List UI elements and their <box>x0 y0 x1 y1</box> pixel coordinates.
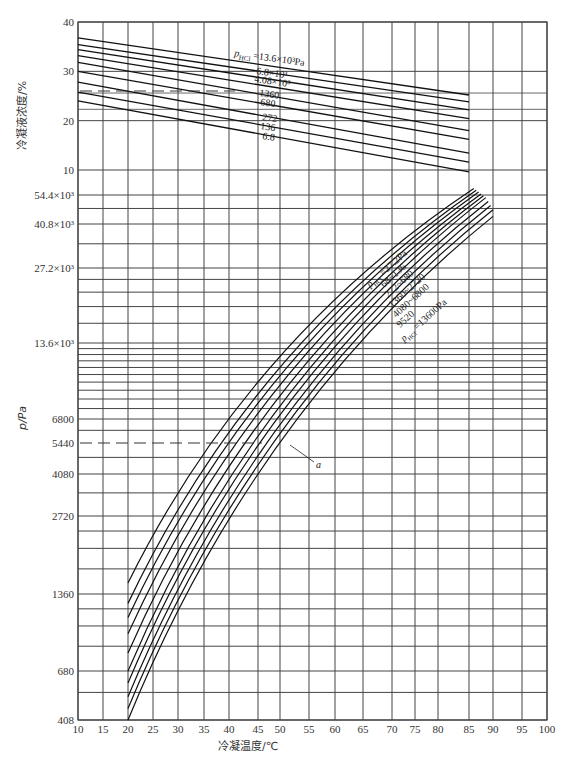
pressure-curve <box>128 190 476 603</box>
x-tick-label: 55 <box>304 723 316 735</box>
lower-y-tick-label: 40.8×10³ <box>34 218 74 230</box>
x-tick-label: 15 <box>98 723 110 735</box>
lower-y-tick-label: 4080 <box>52 468 75 480</box>
x-tick-label: 45 <box>253 723 265 735</box>
svg-text:6.8: 6.8 <box>262 130 276 143</box>
upper-y-tick-label: 30 <box>63 65 75 77</box>
axis-ticks: 1015202530354045505560657075808590951004… <box>34 16 556 735</box>
x-tick-label: 30 <box>173 723 185 735</box>
pressure-curve <box>128 194 481 634</box>
lower-y-tick-label: 6800 <box>52 413 75 425</box>
pressure-curve <box>128 192 479 617</box>
pressure-curve <box>128 202 488 684</box>
grid-lines <box>78 22 547 720</box>
lower-y-tick-label: 5440 <box>52 437 75 449</box>
lower-y-tick-label: 680 <box>58 665 75 677</box>
x-tick-label: 10 <box>73 723 85 735</box>
svg-text:680: 680 <box>260 96 276 109</box>
upper-y-tick-label: 20 <box>63 115 75 127</box>
x-tick-label: 60 <box>330 723 342 735</box>
x-tick-label: 70 <box>387 723 399 735</box>
annotation-leader-a <box>290 445 314 462</box>
pressure-curve <box>128 189 474 583</box>
lower-y-tick-label: 1360 <box>52 588 75 600</box>
upper-y-tick-label: 10 <box>63 164 75 176</box>
x-tick-label: 85 <box>464 723 476 735</box>
x-tick-label: 80 <box>433 723 445 735</box>
lower-y-axis-title: p/Pa <box>16 406 29 431</box>
lower-y-tick-label: 13.6×10³ <box>34 337 74 349</box>
x-tick-label: 25 <box>148 723 160 735</box>
x-tick-label: 20 <box>123 723 135 735</box>
hcl-condensation-chart: 1015202530354045505560657075808590951004… <box>0 0 566 757</box>
x-tick-label: 50 <box>275 723 287 735</box>
x-axis-title: 冷凝温度/℃ <box>218 739 278 753</box>
x-tick-label: 65 <box>358 723 370 735</box>
lower-y-tick-label: 54.4×10³ <box>34 189 74 201</box>
x-tick-label: 95 <box>517 723 529 735</box>
upper-y-tick-label: 40 <box>63 16 75 28</box>
upper-y-axis-title: 冷凝液浓度/% <box>15 81 29 150</box>
lower-y-tick-label: 2720 <box>52 510 75 522</box>
x-tick-label: 75 <box>410 723 422 735</box>
x-tick-label: 100 <box>539 723 556 735</box>
x-tick-label: 35 <box>199 723 211 735</box>
lower-y-tick-label: 27.2×10³ <box>34 262 74 274</box>
lower-y-tick-label: 408 <box>58 714 75 726</box>
x-tick-label: 40 <box>224 723 236 735</box>
x-tick-label: 90 <box>488 723 500 735</box>
upper-series-labels: pHCl =13.6×10³Pa 6.8×10³ 4.08×10³ 1360 6… <box>232 47 306 143</box>
annotation-a: a <box>316 459 321 470</box>
